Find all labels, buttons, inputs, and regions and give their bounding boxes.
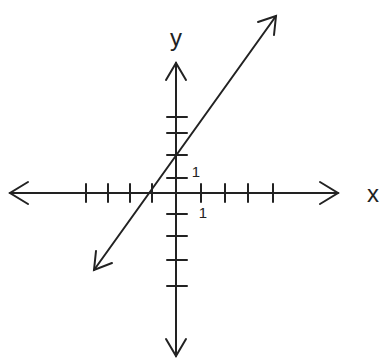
y-unit-label: 1 (192, 163, 200, 180)
y-axis-label: y (170, 24, 182, 51)
coordinate-plane: y x 1 1 (0, 0, 392, 363)
x-unit-label: 1 (199, 204, 207, 221)
x-axis-label: x (367, 180, 379, 207)
plotted-line (94, 16, 276, 270)
